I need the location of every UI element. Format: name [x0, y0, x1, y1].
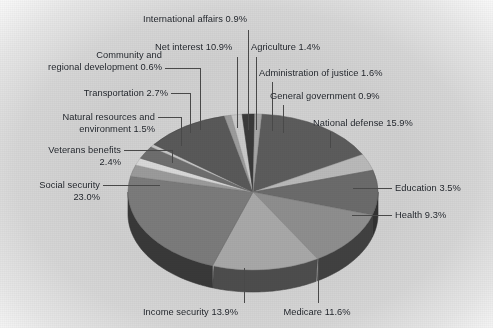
label-medicare: Medicare 11.6% — [252, 307, 382, 318]
label-agriculture: Agriculture 1.4% — [251, 42, 320, 53]
label-education: Education 3.5% — [395, 183, 461, 194]
label-community-regional-development-line1: Community and — [0, 50, 162, 61]
label-natural-resources-line2: environment 1.5% — [0, 124, 155, 135]
pie-top-face: National defense 15.9%Education 3.5%Heal… — [128, 114, 378, 270]
label-income-security: Income security 13.9% — [118, 307, 263, 318]
label-community-regional-development-line2: regional development 0.6% — [0, 62, 162, 73]
label-general-government: General government 0.9% — [270, 91, 380, 102]
pie-chart-figure: National defense 15.9%Education 3.5%Heal… — [0, 0, 493, 328]
leader-line-community-regional-development — [165, 68, 200, 130]
label-international-affairs: International affairs 0.9% — [143, 14, 247, 25]
label-administration-of-justice: Administration of justice 1.6% — [259, 68, 382, 79]
label-veterans-benefits-line1: Veterans benefits — [0, 145, 121, 156]
label-national-defense: National defense 15.9% — [313, 118, 413, 129]
label-social-security-line1: Social security — [0, 180, 100, 191]
label-net-interest: Net interest 10.9% — [155, 42, 232, 53]
label-veterans-benefits-line2: 2.4% — [0, 157, 121, 168]
label-natural-resources-line1: Natural resources and — [0, 112, 155, 123]
label-social-security-line2: 23.0% — [0, 192, 100, 203]
label-health: Health 9.3% — [395, 210, 446, 221]
label-transportation: Transportation 2.7% — [0, 88, 168, 99]
